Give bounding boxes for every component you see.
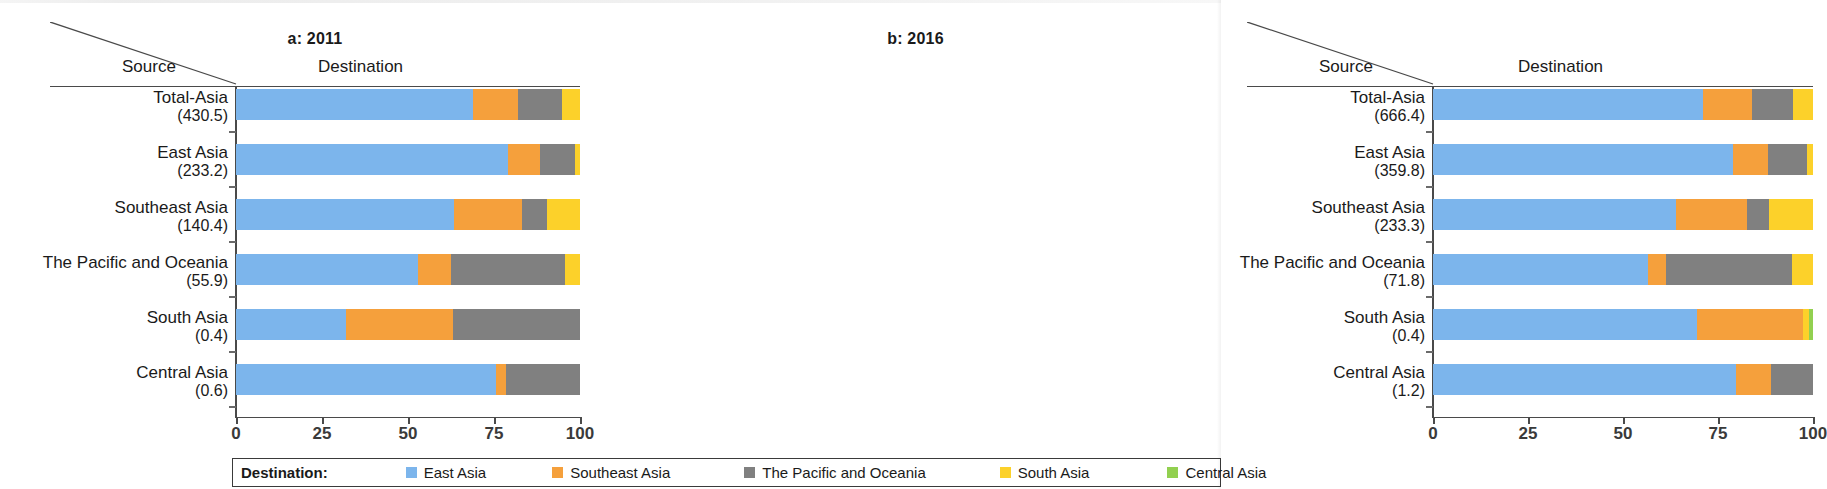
- bar-segment: [1433, 89, 1703, 120]
- x-axis-tick: [580, 417, 582, 424]
- bar-segment: [1807, 144, 1813, 175]
- stacked-bar: [236, 144, 580, 175]
- bar-segment: [1648, 254, 1666, 285]
- bar-segment: [1769, 199, 1813, 230]
- y-label-category: Total-Asia: [1350, 88, 1425, 107]
- bar-segment: [496, 364, 506, 395]
- y-label-category: Central Asia: [136, 363, 228, 382]
- legend-item[interactable]: The Pacific and Oceania: [744, 464, 925, 481]
- bar-segment: [1433, 144, 1733, 175]
- legend-item-label: Central Asia: [1185, 464, 1266, 481]
- bar-segment: [1793, 89, 1813, 120]
- legend-item[interactable]: Southeast Asia: [552, 464, 670, 481]
- y-axis-label: East Asia(359.8): [1354, 143, 1425, 180]
- bar-segment: [453, 309, 580, 340]
- bar-segment: [236, 309, 346, 340]
- x-axis-tick: [494, 417, 496, 424]
- y-label-total: (0.4): [1344, 327, 1425, 345]
- bar-segment: [1697, 309, 1803, 340]
- y-label-total: (233.3): [1312, 217, 1425, 235]
- legend-title: Destination:: [241, 464, 328, 481]
- x-axis-tick-label: 50: [399, 424, 418, 444]
- bar-row: [1433, 309, 1813, 340]
- stacked-bar: [236, 199, 580, 230]
- x-axis-tick: [1433, 417, 1435, 424]
- legend-swatch-icon: [552, 467, 563, 478]
- y-axis-labels-a: Total-Asia(430.5)East Asia(233.2)Southea…: [0, 87, 232, 417]
- bar-segment: [522, 199, 548, 230]
- legend-item-label: Southeast Asia: [570, 464, 670, 481]
- y-label-category: The Pacific and Oceania: [43, 253, 228, 272]
- y-label-category: Southeast Asia: [115, 198, 228, 217]
- bar-segment: [1809, 309, 1813, 340]
- y-axis-label: The Pacific and Oceania(55.9): [43, 253, 228, 290]
- row-tick: [229, 186, 236, 188]
- bar-row: [1433, 89, 1813, 120]
- y-label-total: (666.4): [1350, 107, 1425, 125]
- bar-segment: [454, 199, 521, 230]
- axis-label-destination-a: Destination: [318, 57, 403, 77]
- plot-area-b: [1433, 87, 1813, 417]
- legend-items: East AsiaSoutheast AsiaThe Pacific and O…: [328, 464, 1267, 481]
- stacked-bar: [1433, 89, 1813, 120]
- bar-segment: [562, 89, 580, 120]
- bar-segment: [1771, 364, 1813, 395]
- row-tick: [229, 406, 236, 408]
- bar-row: [236, 309, 580, 340]
- legend-item[interactable]: South Asia: [1000, 464, 1090, 481]
- stacked-bar: [236, 254, 580, 285]
- x-axis-tick-label: 100: [1799, 424, 1827, 444]
- stacked-bar: [1433, 199, 1813, 230]
- x-axis-tick-labels-a: 0255075100: [236, 424, 582, 446]
- bar-segment: [236, 364, 496, 395]
- y-axis-label: East Asia(233.2): [157, 143, 228, 180]
- page-scan-edge-right: [1217, 0, 1221, 489]
- y-label-category: Total-Asia: [153, 88, 228, 107]
- y-label-total: (359.8): [1354, 162, 1425, 180]
- y-label-total: (0.6): [136, 382, 228, 400]
- figure-panels: a: 2011 Source Destination Total-Asia(43…: [0, 0, 1221, 450]
- bar-segment: [1433, 309, 1697, 340]
- y-label-category: The Pacific and Oceania: [1240, 253, 1425, 272]
- bar-segment: [418, 254, 451, 285]
- row-tick: [1426, 186, 1433, 188]
- row-tick: [229, 241, 236, 243]
- axis-label-destination-b: Destination: [1518, 57, 1603, 77]
- x-axis-tick: [322, 417, 324, 424]
- x-axis-tick-label: 0: [1428, 424, 1437, 444]
- y-label-total: (430.5): [153, 107, 228, 125]
- y-axis-label: Central Asia(0.6): [136, 363, 228, 400]
- y-label-category: Central Asia: [1333, 363, 1425, 382]
- bar-row: [236, 144, 580, 175]
- panel-a-2011: a: 2011 Source Destination Total-Asia(43…: [0, 0, 610, 450]
- x-axis-tick: [1623, 417, 1625, 424]
- bar-row: [1433, 199, 1813, 230]
- bar-segment: [1433, 199, 1676, 230]
- y-axis-label: South Asia(0.4): [1344, 308, 1425, 345]
- bar-segment: [1736, 364, 1771, 395]
- panel-b-2016: b: 2016 Source Destination Total-Asia(66…: [610, 0, 1221, 450]
- bar-row: [236, 254, 580, 285]
- axis-label-source-a: Source: [122, 57, 176, 77]
- legend-item-label: East Asia: [424, 464, 487, 481]
- legend-item[interactable]: East Asia: [406, 464, 487, 481]
- bar-segment: [575, 144, 580, 175]
- row-tick: [1426, 351, 1433, 353]
- y-label-total: (233.2): [157, 162, 228, 180]
- y-axis-labels-b: Total-Asia(666.4)East Asia(359.8)Southea…: [1200, 87, 1429, 417]
- bar-row: [236, 199, 580, 230]
- bar-segment: [1768, 144, 1807, 175]
- bar-rows-a: [236, 87, 580, 417]
- stacked-bar: [1433, 254, 1813, 285]
- x-axis-tick-label: 100: [566, 424, 594, 444]
- bar-segment: [1752, 89, 1793, 120]
- bar-segment: [236, 144, 508, 175]
- bar-segment: [565, 254, 580, 285]
- bar-segment: [540, 144, 574, 175]
- y-label-category: Southeast Asia: [1312, 198, 1425, 217]
- row-tick: [229, 296, 236, 298]
- y-label-category: South Asia: [1344, 308, 1425, 327]
- y-label-total: (55.9): [43, 272, 228, 290]
- x-axis-tick-label: 75: [485, 424, 504, 444]
- legend-item-label: The Pacific and Oceania: [762, 464, 925, 481]
